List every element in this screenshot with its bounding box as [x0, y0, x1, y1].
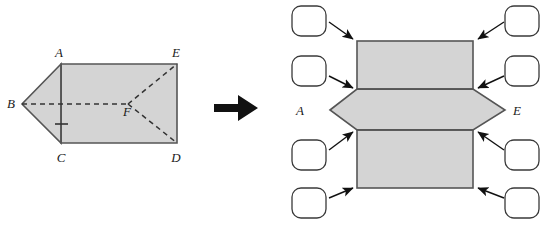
figure-canvas: A B C D E F A E: [0, 0, 551, 226]
prism-vertex-label-C: C: [57, 150, 66, 165]
prism-vertex-label-A: A: [54, 45, 63, 60]
net-diagram: A E: [295, 41, 521, 188]
prism-vertex-label-E: E: [171, 45, 180, 60]
callout-arrow-top-right: [478, 22, 504, 39]
answer-box-top-left[interactable]: [292, 6, 326, 36]
answer-box-top-right[interactable]: [505, 6, 539, 36]
net-rect-bottom: [357, 130, 473, 188]
geometry-figure: A B C D E F A E: [0, 0, 551, 226]
answer-box-low-left[interactable]: [292, 188, 326, 218]
net-vertex-label-A: A: [295, 103, 304, 118]
callout-arrow-bottom-right: [478, 132, 504, 150]
callout-arrow-mid-left: [329, 76, 353, 88]
prism-vertex-label-D: D: [170, 150, 181, 165]
net-vertex-label-E: E: [512, 103, 521, 118]
net-middle-band-with-flaps: [330, 89, 505, 130]
callout-arrow-low-right: [478, 188, 504, 198]
callout-arrow-mid-right: [478, 76, 504, 88]
answer-box-mid-right[interactable]: [505, 56, 539, 86]
prism-vertex-label-F: F: [122, 104, 132, 119]
transform-arrow-icon: [214, 95, 258, 121]
callout-arrow-top-left: [329, 22, 353, 39]
prism-vertex-label-B: B: [7, 96, 15, 111]
prism-diagram: A B C D E F: [7, 45, 181, 165]
answer-box-low-right[interactable]: [505, 188, 539, 218]
net-rect-top: [357, 41, 473, 89]
answer-box-bottom-right[interactable]: [505, 140, 539, 170]
answer-box-bottom-left[interactable]: [292, 140, 326, 170]
callout-arrow-bottom-left: [329, 132, 353, 150]
callout-arrow-low-left: [329, 188, 353, 198]
answer-box-mid-left[interactable]: [292, 56, 326, 86]
